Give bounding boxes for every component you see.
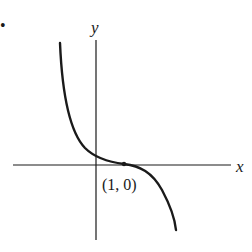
- function-curve: [60, 43, 176, 230]
- list-bullet: •: [0, 17, 6, 34]
- graph-canvas: • y x (1, 0): [0, 0, 252, 252]
- point-marker: [122, 162, 126, 166]
- y-axis-label: y: [89, 18, 99, 37]
- x-axis-label: x: [235, 157, 244, 176]
- point-label: (1, 0): [102, 176, 137, 194]
